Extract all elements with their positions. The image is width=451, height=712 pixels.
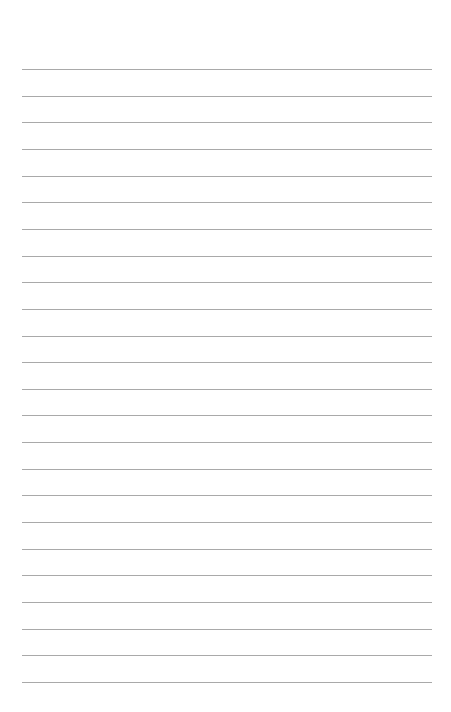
ruled-line	[22, 336, 432, 337]
ruled-line	[22, 282, 432, 283]
ruled-line	[22, 229, 432, 230]
ruled-line	[22, 176, 432, 177]
ruled-line	[22, 522, 432, 523]
ruled-line	[22, 256, 432, 257]
ruled-line	[22, 149, 432, 150]
ruled-line	[22, 655, 432, 656]
ruled-line	[22, 682, 432, 683]
ruled-line	[22, 389, 432, 390]
lined-paper-page	[0, 0, 451, 712]
ruled-line	[22, 362, 432, 363]
ruled-line	[22, 575, 432, 576]
ruled-line	[22, 469, 432, 470]
ruled-line	[22, 442, 432, 443]
ruled-line	[22, 309, 432, 310]
ruled-line	[22, 122, 432, 123]
ruled-line	[22, 602, 432, 603]
ruled-line	[22, 629, 432, 630]
ruled-line	[22, 96, 432, 97]
ruled-line	[22, 495, 432, 496]
ruled-line	[22, 69, 432, 70]
ruled-line	[22, 415, 432, 416]
ruled-line	[22, 202, 432, 203]
ruled-line	[22, 549, 432, 550]
